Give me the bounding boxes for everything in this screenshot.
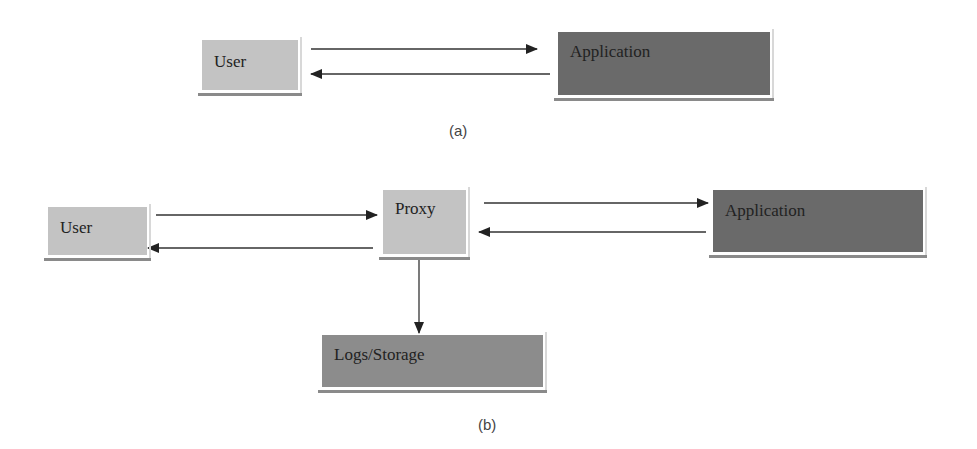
node-label: User [60,218,92,237]
node-label: Application [725,201,805,220]
node-user-a: User [202,40,298,90]
node-application-b: Application [713,190,923,252]
node-user-b: User [48,207,147,255]
node-label: Application [570,42,650,61]
node-proxy: Proxy [383,190,466,254]
caption-a: (a) [449,122,467,139]
node-logs-storage: Logs/Storage [322,335,543,387]
node-label: User [214,52,246,71]
caption-b: (b) [478,416,496,433]
node-label: Logs/Storage [334,345,425,364]
node-label: Proxy [395,199,436,218]
node-application-a: Application [558,32,770,95]
